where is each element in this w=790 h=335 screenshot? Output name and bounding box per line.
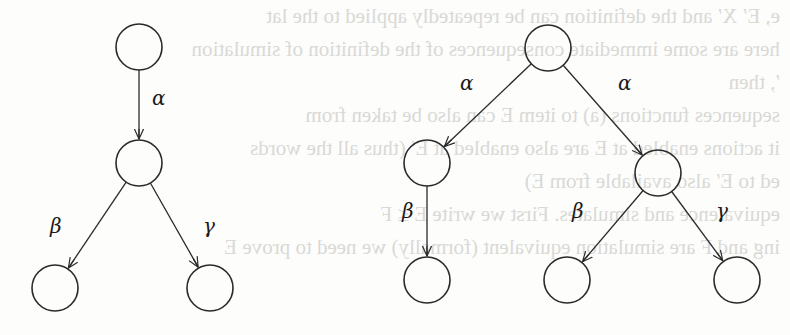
state-node bbox=[116, 140, 162, 186]
transition-label: γ bbox=[716, 199, 728, 223]
transition-label: α bbox=[152, 86, 166, 110]
transition-label: β bbox=[401, 199, 414, 223]
transition-arrow bbox=[444, 64, 531, 147]
labels-layer: αβγααββγ bbox=[49, 71, 728, 238]
transition-label: β bbox=[49, 214, 62, 238]
state-node bbox=[404, 140, 450, 186]
state-node bbox=[404, 257, 450, 303]
state-node bbox=[32, 265, 78, 311]
state-node bbox=[187, 265, 233, 311]
right-tree bbox=[404, 25, 760, 303]
state-node bbox=[116, 24, 162, 70]
transition-arrow bbox=[583, 191, 644, 262]
nodes-layer bbox=[32, 24, 760, 311]
state-node bbox=[714, 257, 760, 303]
transition-label: γ bbox=[203, 214, 215, 238]
state-node bbox=[635, 150, 681, 196]
transition-arrow bbox=[150, 183, 198, 267]
left-tree bbox=[32, 24, 233, 311]
transition-label: α bbox=[618, 71, 632, 95]
state-node bbox=[544, 257, 590, 303]
transition-tree-diagram: αβγααββγ bbox=[0, 0, 790, 335]
transition-arrow bbox=[68, 182, 126, 268]
transition-label: β bbox=[571, 199, 584, 223]
transition-label: α bbox=[460, 71, 474, 95]
state-node bbox=[525, 25, 571, 71]
